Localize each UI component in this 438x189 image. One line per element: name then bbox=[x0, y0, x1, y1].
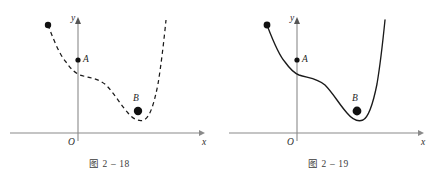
point-b-dot bbox=[134, 107, 142, 115]
point-a-label: A bbox=[82, 54, 89, 64]
x-axis bbox=[229, 130, 424, 136]
function-curve-solid bbox=[267, 20, 385, 121]
curve-left-endpoint-dot bbox=[264, 22, 271, 29]
point-b-dot bbox=[353, 107, 362, 116]
curve-left-endpoint-dot bbox=[45, 22, 51, 28]
origin-label: O bbox=[68, 137, 75, 147]
x-axis bbox=[10, 130, 205, 136]
x-axis-label: x bbox=[201, 137, 207, 147]
figure-panel-2-19: y x O A B 图 2 – 19 bbox=[219, 0, 438, 189]
point-b-label: B bbox=[133, 93, 139, 103]
origin-label: O bbox=[287, 137, 294, 147]
figure-caption-2-19: 图 2 – 19 bbox=[219, 156, 438, 170]
point-a-label: A bbox=[301, 54, 308, 64]
y-axis bbox=[294, 17, 300, 141]
figure-caption-2-18: 图 2 – 18 bbox=[0, 156, 219, 170]
plot-2-18: y x O A B bbox=[0, 0, 219, 160]
y-axis-label: y bbox=[289, 13, 295, 23]
function-curve-dashed bbox=[48, 20, 166, 121]
point-b-label: B bbox=[352, 93, 358, 103]
y-axis-label: y bbox=[70, 13, 76, 23]
x-axis-label: x bbox=[420, 137, 426, 147]
figure-page: y x O A B 图 2 – 18 bbox=[0, 0, 438, 189]
plot-2-19: y x O A B bbox=[219, 0, 438, 160]
y-axis bbox=[75, 17, 81, 141]
point-a-dot bbox=[75, 57, 80, 62]
figure-panel-2-18: y x O A B 图 2 – 18 bbox=[0, 0, 219, 189]
point-a-dot bbox=[294, 57, 299, 62]
